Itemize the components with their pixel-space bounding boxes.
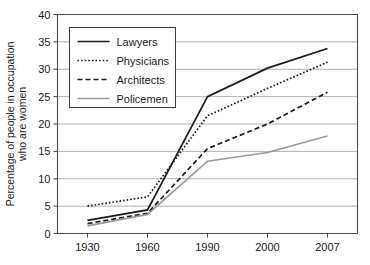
x-tick-label: 2007 — [315, 241, 339, 253]
line-chart: 0510152025303540 19301960199020002007 Pe… — [0, 0, 370, 265]
y-tick-label: 15 — [38, 145, 50, 157]
x-tick-label: 2000 — [255, 241, 279, 253]
x-tick-label: 1960 — [135, 241, 159, 253]
y-tick-label: 5 — [44, 200, 50, 212]
chart-legend: LawyersPhysiciansArchitectsPolicemen — [70, 28, 176, 108]
y-tick-label: 40 — [38, 9, 50, 21]
y-tick-label: 10 — [38, 173, 50, 185]
legend-label: Policemen — [117, 93, 168, 105]
chart-background — [0, 0, 370, 265]
y-tick-label: 0 — [44, 228, 50, 240]
legend-label: Architects — [117, 74, 166, 86]
y-tick-label: 35 — [38, 36, 50, 48]
legend-label: Physicians — [117, 55, 170, 67]
y-axis-title-line2: who are women — [16, 87, 28, 162]
legend-label: Lawyers — [117, 36, 158, 48]
y-tick-label: 25 — [38, 91, 50, 103]
y-axis-title-line1: Percentage of people in occupation — [4, 42, 16, 207]
x-tick-label: 1930 — [75, 241, 99, 253]
y-tick-label: 30 — [38, 63, 50, 75]
chart-figure: 0510152025303540 19301960199020002007 Pe… — [0, 0, 370, 265]
x-tick-label: 1990 — [195, 241, 219, 253]
y-tick-label: 20 — [38, 118, 50, 130]
